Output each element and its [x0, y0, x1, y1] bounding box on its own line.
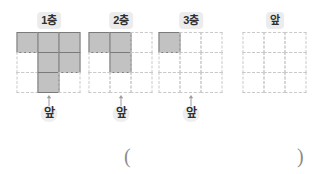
tier-label-3: 3층	[179, 12, 203, 29]
grid-cell[interactable]	[17, 52, 39, 73]
grid-cell[interactable]	[59, 72, 81, 93]
grid-cell[interactable]	[243, 32, 265, 53]
cube-grid-3[interactable]	[160, 33, 223, 93]
arrow-up-icon	[187, 95, 196, 106]
grid-cell[interactable]	[110, 32, 132, 53]
answer-open-paren: (	[124, 141, 131, 171]
grid-cell[interactable]	[285, 52, 307, 73]
cube-grid-4-answer[interactable]	[244, 33, 307, 93]
grid-cell[interactable]	[243, 72, 265, 93]
figure-block-2: 2층 앞	[86, 12, 156, 124]
grid-cell[interactable]	[131, 72, 153, 93]
answer-blank-row: ( )	[0, 141, 324, 174]
grid-cell[interactable]	[201, 52, 223, 73]
grid-cell[interactable]	[201, 32, 223, 53]
worksheet-canvas: 1층 앞 2층	[0, 0, 324, 174]
arrow-up-icon	[45, 95, 54, 106]
grid-cell[interactable]	[201, 72, 223, 93]
answer-close-paren: )	[297, 141, 304, 171]
arrow-up-icon	[117, 95, 126, 106]
grid-cell[interactable]	[159, 72, 181, 93]
grid-cell[interactable]	[264, 52, 286, 73]
front-label-1: 앞	[41, 106, 58, 122]
grid-cell[interactable]	[110, 72, 132, 93]
figure-block-4: 앞	[240, 12, 310, 124]
cube-grid-1[interactable]	[18, 33, 81, 93]
cube-grid-2[interactable]	[90, 33, 153, 93]
grid-cell[interactable]	[180, 72, 202, 93]
grid-cell[interactable]	[59, 32, 81, 53]
grid-cell[interactable]	[38, 32, 60, 53]
grid-cell[interactable]	[59, 52, 81, 73]
grid-cell[interactable]	[264, 32, 286, 53]
grid-cell[interactable]	[38, 52, 60, 73]
figure-block-1: 1층 앞	[14, 12, 84, 124]
grid-cell[interactable]	[285, 32, 307, 53]
front-label-2: 앞	[113, 106, 130, 122]
grid-cell[interactable]	[38, 72, 60, 93]
grid-cell[interactable]	[110, 52, 132, 73]
grid-cell[interactable]	[264, 72, 286, 93]
grid-cell[interactable]	[131, 32, 153, 53]
grid-cell[interactable]	[17, 32, 39, 53]
grid-cell[interactable]	[180, 32, 202, 53]
grid-cell[interactable]	[285, 72, 307, 93]
grid-cell[interactable]	[89, 72, 111, 93]
grid-cell[interactable]	[17, 72, 39, 93]
grid-cell[interactable]	[180, 52, 202, 73]
grid-cell[interactable]	[89, 32, 111, 53]
grid-cell[interactable]	[159, 32, 181, 53]
grid-cell[interactable]	[243, 52, 265, 73]
tier-label-1: 1층	[37, 12, 61, 29]
front-label-3: 앞	[183, 106, 200, 122]
tier-label-2: 2층	[109, 12, 133, 29]
grid-cell[interactable]	[89, 52, 111, 73]
grid-cell[interactable]	[131, 52, 153, 73]
grid-cell[interactable]	[159, 52, 181, 73]
tier-label-4: 앞	[266, 12, 284, 29]
figure-block-3: 3층 앞	[156, 12, 226, 124]
